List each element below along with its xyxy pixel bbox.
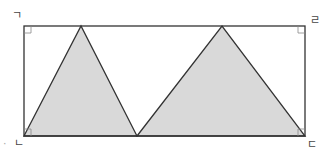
stray-dot: · [3, 138, 7, 149]
right-angle-marker-top-left [24, 26, 31, 33]
vertex-label-bottom-left: ㄴ [14, 138, 24, 149]
geometry-diagram [0, 0, 331, 155]
left-triangle [24, 26, 137, 136]
vertex-label-bottom-right: ㄷ [307, 139, 317, 150]
vertex-label-top-right: ㄹ [310, 15, 320, 26]
right-angle-marker-top-right [298, 26, 305, 33]
right-triangle [137, 26, 305, 136]
vertex-label-top-left: ㄱ [12, 10, 22, 21]
